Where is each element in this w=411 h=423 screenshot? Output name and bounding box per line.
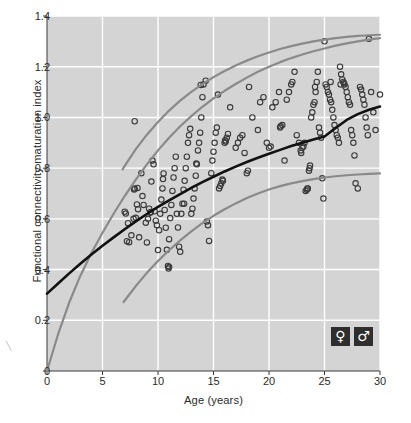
y-tick-label: 1.4: [10, 10, 50, 22]
x-tick-label: 20: [249, 375, 289, 387]
x-tick-label: 0: [27, 375, 67, 387]
legend-badge-male: ♂: [354, 327, 373, 346]
x-tick-label: 10: [138, 375, 178, 387]
x-tick-label: 30: [360, 375, 400, 387]
x-tick-label: 25: [305, 375, 345, 387]
x-tick-label: 5: [83, 375, 123, 387]
x-axis-label: Age (years): [47, 394, 380, 406]
y-tick-label: 1.0: [10, 111, 50, 123]
y-tick-label: 0.4: [10, 264, 50, 276]
x-tick-label: 15: [194, 375, 234, 387]
chart-figure: Functional connectivity maturation index…: [0, 0, 411, 423]
y-tick-label: 0.8: [10, 162, 50, 174]
legend-badge-female: ♀: [331, 327, 350, 346]
y-tick-label: 0.2: [10, 314, 50, 326]
page-edge-mark: ╲: [6, 341, 11, 351]
y-tick-label: 0.6: [10, 213, 50, 225]
scatter-plot-canvas: [0, 0, 411, 423]
y-tick-label: 1.2: [10, 61, 50, 73]
sex-legend: ♀♂: [331, 327, 373, 346]
